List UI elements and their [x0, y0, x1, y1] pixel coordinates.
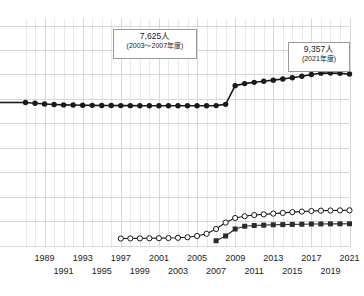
- data-point-open-circle: [128, 236, 133, 241]
- data-point-filled-circle: [242, 81, 247, 86]
- data-point-open-circle: [204, 231, 209, 236]
- data-point-filled-circle: [61, 102, 66, 107]
- x-tick-label-upper: 1997: [106, 253, 136, 263]
- data-point-open-circle: [213, 226, 218, 231]
- data-point-open-circle: [166, 235, 171, 240]
- data-point-open-circle: [242, 214, 247, 219]
- x-tick-label-upper: 2017: [296, 253, 326, 263]
- x-tick-label-upper: 2001: [144, 253, 174, 263]
- data-point-open-circle: [280, 210, 285, 215]
- data-point-filled-circle: [175, 103, 180, 108]
- annotation-box-peak-plateau: 7,625人 (2003〜2007年度): [113, 29, 197, 59]
- data-point-open-circle: [185, 235, 190, 240]
- data-point-filled-circle: [290, 75, 295, 80]
- data-point-filled-circle: [128, 103, 133, 108]
- data-point-filled-square: [280, 222, 285, 227]
- data-point-open-circle: [252, 212, 257, 217]
- data-point-filled-circle: [99, 103, 104, 108]
- data-point-open-circle: [147, 236, 152, 241]
- x-tick-label-upper: 2013: [258, 253, 288, 263]
- data-point-filled-square: [299, 222, 304, 227]
- annotation-box-latest: 9,357人 (2021年度): [288, 42, 350, 72]
- annotation-period: (2003〜2007年度): [118, 42, 192, 50]
- data-point-filled-circle: [223, 102, 228, 107]
- data-point-filled-square: [261, 223, 266, 228]
- data-point-open-circle: [156, 236, 161, 241]
- data-point-open-circle: [223, 220, 228, 225]
- data-point-filled-circle: [51, 102, 56, 107]
- data-point-filled-circle: [166, 103, 171, 108]
- data-point-filled-circle: [309, 72, 314, 77]
- data-point-filled-square: [242, 224, 247, 229]
- data-point-open-circle: [118, 236, 123, 241]
- data-point-open-circle: [318, 208, 323, 213]
- data-point-filled-circle: [185, 103, 190, 108]
- x-tick-label-upper: 2021: [335, 253, 364, 263]
- data-point-filled-square: [271, 222, 276, 227]
- data-point-filled-circle: [280, 76, 285, 81]
- annotation-value: 7,625人: [118, 32, 192, 42]
- data-point-filled-square: [309, 222, 314, 227]
- data-point-open-circle: [290, 210, 295, 215]
- data-point-filled-circle: [147, 103, 152, 108]
- data-point-filled-circle: [204, 103, 209, 108]
- data-series-layer: [0, 70, 352, 243]
- data-point-filled-square: [318, 221, 323, 226]
- data-point-open-circle: [194, 233, 199, 238]
- data-point-filled-circle: [156, 103, 161, 108]
- data-point-open-circle: [261, 212, 266, 217]
- data-point-open-circle: [337, 208, 342, 213]
- x-tick-label-upper: 2005: [182, 253, 212, 263]
- data-point-filled-circle: [118, 103, 123, 108]
- data-point-filled-square: [223, 233, 228, 238]
- data-point-filled-circle: [194, 103, 199, 108]
- data-point-filled-circle: [90, 103, 95, 108]
- x-tick-label-lower: 1991: [49, 266, 79, 276]
- x-tick-label-lower: 2007: [201, 266, 231, 276]
- data-point-filled-circle: [23, 100, 28, 105]
- data-point-filled-circle: [137, 103, 142, 108]
- data-point-filled-square: [214, 238, 219, 243]
- data-point-filled-square: [290, 222, 295, 227]
- x-tick-label-lower: 2015: [277, 266, 307, 276]
- data-point-filled-circle: [271, 77, 276, 82]
- data-point-filled-circle: [261, 79, 266, 84]
- x-tick-label-lower: 2019: [315, 266, 345, 276]
- data-point-open-circle: [233, 215, 238, 220]
- data-point-filled-circle: [70, 102, 75, 107]
- data-point-filled-circle: [32, 101, 37, 106]
- x-tick-label-lower: 1999: [125, 266, 155, 276]
- data-point-open-circle: [309, 208, 314, 213]
- data-point-filled-square: [252, 223, 257, 228]
- data-point-filled-circle: [347, 71, 352, 76]
- data-point-open-circle: [175, 235, 180, 240]
- data-point-filled-circle: [109, 103, 114, 108]
- x-tick-label-upper: 1993: [68, 253, 98, 263]
- data-point-filled-circle: [299, 74, 304, 79]
- x-tick-label-lower: 2011: [239, 266, 269, 276]
- data-point-open-circle: [137, 236, 142, 241]
- x-tick-label-upper: 1989: [30, 253, 60, 263]
- data-point-open-circle: [347, 208, 352, 213]
- annotation-period: (2021年度): [293, 55, 345, 63]
- data-point-open-circle: [328, 208, 333, 213]
- data-point-filled-circle: [252, 80, 257, 85]
- data-point-filled-circle: [80, 103, 85, 108]
- data-point-open-circle: [299, 209, 304, 214]
- data-point-filled-circle: [213, 103, 218, 108]
- data-point-filled-circle: [42, 101, 47, 106]
- data-point-filled-square: [347, 221, 352, 226]
- annotation-value: 9,357人: [293, 45, 345, 55]
- data-point-filled-square: [328, 221, 333, 226]
- data-point-filled-circle: [232, 83, 237, 88]
- data-point-filled-square: [337, 221, 342, 226]
- x-tick-label-upper: 2009: [220, 253, 250, 263]
- data-point-filled-square: [233, 227, 238, 232]
- x-tick-label-lower: 2003: [163, 266, 193, 276]
- data-point-open-circle: [271, 211, 276, 216]
- x-tick-label-lower: 1995: [87, 266, 117, 276]
